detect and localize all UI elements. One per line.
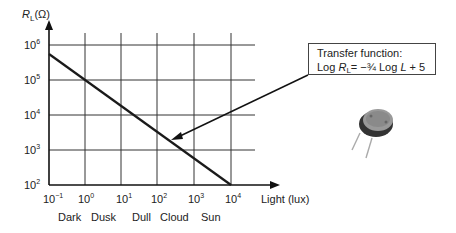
condition-dusk: Dusk bbox=[91, 211, 117, 223]
y-tick: 103 bbox=[24, 143, 40, 156]
transfer-line bbox=[49, 54, 231, 185]
y-tick: 102 bbox=[24, 178, 40, 191]
condition-dark: Dark bbox=[58, 211, 82, 223]
callout-title: Transfer function: bbox=[317, 46, 435, 60]
x-axis-label: Light (lux) bbox=[261, 193, 309, 205]
y-tick: 104 bbox=[24, 108, 40, 121]
x-tick: 102 bbox=[151, 192, 167, 205]
grid-horizontal bbox=[49, 45, 255, 150]
x-tick: 101 bbox=[116, 192, 132, 205]
grid-vertical bbox=[85, 33, 231, 185]
x-tick: 104 bbox=[225, 192, 241, 205]
y-tick: 106 bbox=[24, 38, 40, 51]
condition-sun: Sun bbox=[201, 211, 221, 223]
x-tick: 100 bbox=[78, 192, 94, 205]
x-tick: 10−1 bbox=[43, 192, 63, 205]
ldr-component-image bbox=[352, 109, 393, 158]
y-tick: 105 bbox=[24, 73, 40, 86]
x-tick-labels: 10−1 100 101 102 103 104 bbox=[43, 192, 241, 205]
callout-equation: Log RL= −¾ Log L + 5 bbox=[317, 60, 435, 78]
condition-cloud: Cloud bbox=[160, 211, 189, 223]
y-tick-labels: 106 105 104 103 102 bbox=[24, 38, 40, 191]
ldr-transfer-chart: RL(Ω) 106 105 104 103 102 10−1 100 101 1… bbox=[0, 0, 456, 233]
light-condition-labels: Dark Dusk Dull Cloud Sun bbox=[58, 211, 221, 223]
y-axis-label: RL(Ω) bbox=[22, 8, 50, 23]
x-tick: 103 bbox=[188, 192, 204, 205]
callout-arrow bbox=[171, 75, 308, 140]
condition-dull: Dull bbox=[132, 211, 151, 223]
transfer-function-callout: Transfer function: Log RL= −¾ Log L + 5 bbox=[308, 43, 436, 75]
